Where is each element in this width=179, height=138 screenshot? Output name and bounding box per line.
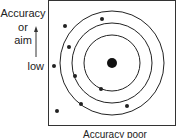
arrowhead-icon xyxy=(34,26,38,32)
shot-dots xyxy=(52,17,129,113)
target-diagram xyxy=(0,0,179,138)
bullseye xyxy=(107,58,117,68)
